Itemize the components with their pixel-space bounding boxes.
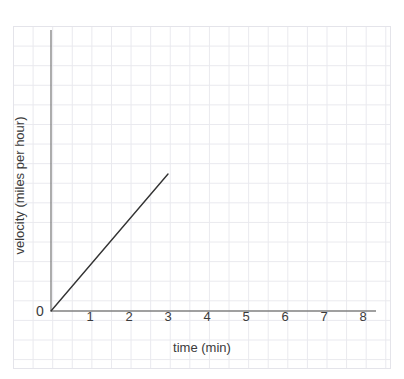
x-tick-label-4: 4 (197, 309, 217, 324)
x-tick-label-2: 2 (119, 309, 139, 324)
x-tick-label-1: 1 (80, 309, 100, 324)
x-tick-label-5: 5 (236, 309, 256, 324)
y-axis-label-wrapper: velocity (miles per hour) (0, 0, 36, 379)
x-tick-label-3: 3 (158, 309, 178, 324)
chart-figure: 0 1 2 3 4 5 6 7 8 time (min) velocity (m… (0, 0, 404, 379)
x-tick-label-7: 7 (314, 309, 334, 324)
velocity-line-series (51, 174, 168, 311)
x-tick-label-8: 8 (353, 309, 373, 324)
x-tick-label-6: 6 (275, 309, 295, 324)
y-axis-label: velocity (miles per hour) (12, 91, 27, 281)
x-axis-label: time (min) (0, 340, 404, 355)
